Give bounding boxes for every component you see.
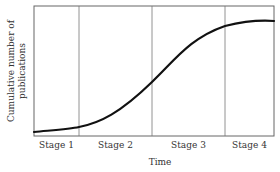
y-axis-label: Cumulative number of publications: [0, 6, 34, 136]
stage-label-3: Stage 3: [152, 140, 225, 150]
stage-label-1: Stage 1: [34, 140, 79, 150]
s-curve-chart: Cumulative number of publications Stage …: [0, 0, 280, 172]
plot-frame: [34, 6, 274, 136]
x-axis-label: Time: [140, 157, 180, 167]
stage-label-2: Stage 2: [79, 140, 152, 150]
y-axis-label-line-2: publications: [17, 20, 28, 122]
cumulative-publications-curve: [34, 21, 274, 132]
stage-label-4: Stage 4: [225, 140, 274, 150]
y-axis-label-line-1: Cumulative number of: [6, 20, 17, 122]
